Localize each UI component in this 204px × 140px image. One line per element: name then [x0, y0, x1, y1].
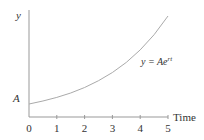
- exponential-growth-chart: 012345 y Time A y = Aert: [0, 0, 204, 140]
- y-axis-label: y: [15, 9, 21, 21]
- x-tick-label: 0: [26, 122, 32, 134]
- x-tick-label: 1: [54, 122, 60, 134]
- equation-label: y = Aert: [140, 55, 173, 67]
- a-intercept-label: A: [12, 92, 20, 104]
- x-tick-label: 5: [165, 122, 171, 134]
- x-axis-label: Time: [173, 111, 196, 123]
- x-tick-labels: 012345: [26, 122, 171, 134]
- x-tick-label: 2: [82, 122, 88, 134]
- x-tick-label: 4: [137, 122, 143, 134]
- x-tick-label: 3: [110, 122, 116, 134]
